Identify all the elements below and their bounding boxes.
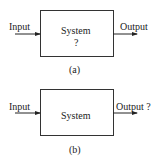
output-label-b: Output ? [116, 101, 151, 112]
system-unknown-a: ? [74, 37, 78, 48]
input-label-a: Input [9, 21, 30, 32]
output-label-a: Output [120, 21, 148, 32]
system-label-a: System [61, 25, 90, 36]
caption-a: (a) [69, 64, 80, 75]
caption-b: (b) [69, 144, 81, 155]
input-label-b: Input [9, 101, 30, 112]
system-label-b: System [61, 110, 90, 121]
